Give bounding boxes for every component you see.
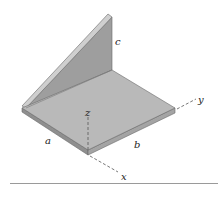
label-c: c [115,36,121,47]
label-z: z [84,107,91,118]
label-a: a [45,135,51,146]
x-axis [90,156,118,172]
bracket-diagram: c z y a b x [0,0,224,200]
label-x: x [121,171,127,182]
label-y: y [197,94,204,105]
label-b: b [134,139,140,150]
y-axis [177,99,196,109]
separator-rule [10,183,218,184]
